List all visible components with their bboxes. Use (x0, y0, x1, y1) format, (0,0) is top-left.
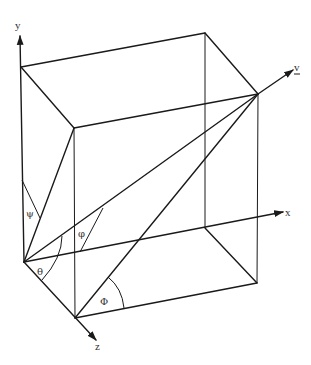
box-edge-back-top (21, 33, 205, 67)
box-edge-front-right (257, 94, 258, 283)
x-axis-label: x (285, 206, 291, 218)
angle-label-psi: ψ (26, 208, 34, 219)
vector-v-label: v (294, 61, 300, 73)
projection-yz-diagonal (24, 128, 74, 262)
box-edge-top-right-depth (205, 33, 258, 94)
x-axis (24, 212, 283, 262)
angle-arc-phi-upper (108, 277, 124, 308)
angle-label-theta: θ (37, 266, 43, 277)
box-edge-bottom-right-depth (205, 228, 257, 283)
z-axis-label: z (95, 340, 100, 352)
y-axis-label: y (15, 19, 21, 31)
angle-label-phi-lower: φ (78, 228, 85, 239)
z-axis (24, 262, 96, 340)
angle-label-phi-upper: Φ (100, 296, 108, 307)
diagram-canvas: y x z v ψ φ θ Φ (0, 0, 311, 365)
box-edge-front-left (74, 128, 75, 318)
vector-v-extension (258, 70, 293, 94)
box-edge-front-top (74, 94, 258, 128)
box-edge-top-left-depth (21, 67, 74, 128)
